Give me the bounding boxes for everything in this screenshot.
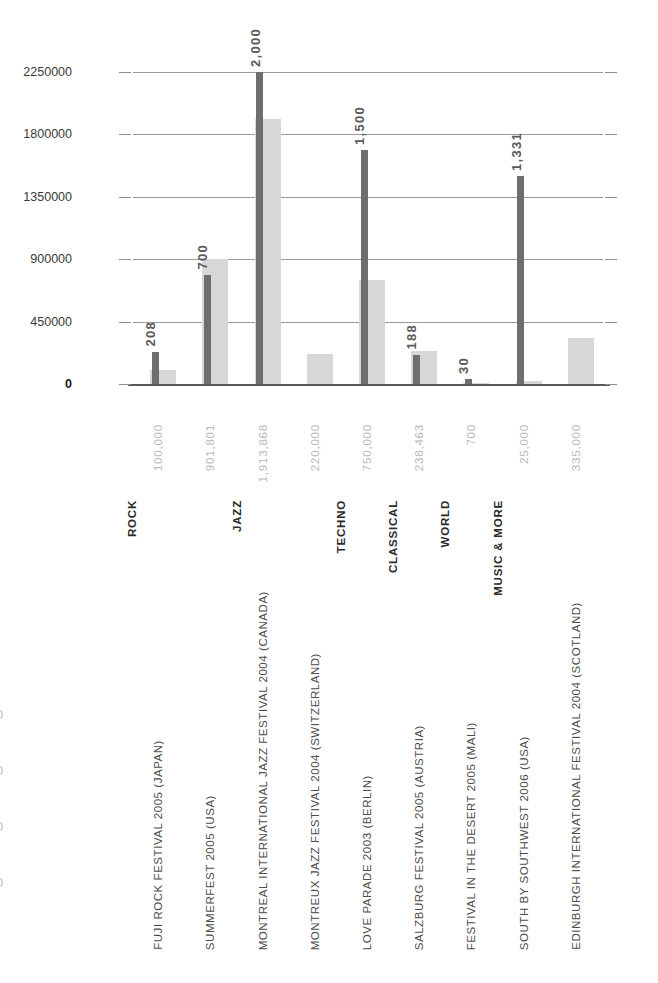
category-label: SOUTH BY SOUTHWEST 2006 (USA) — [519, 736, 530, 950]
plot-area: 0045000040090000080013500001200180000016… — [133, 72, 603, 384]
y-axis-left-tick-label: 900000 — [0, 253, 72, 265]
genre-label-music-more: MUSIC & MORE — [493, 500, 504, 596]
attendance-value-label: 238,463 — [414, 424, 425, 471]
bar-price — [152, 352, 159, 384]
tick-mark-left — [119, 134, 131, 135]
attendance-value-label: 750,000 — [362, 424, 373, 471]
category-label: SALZBURG FESTIVAL 2005 (AUSTRIA) — [414, 725, 425, 950]
chart-canvas: 0 0 0 0 00450000400900000800135000012001… — [0, 0, 658, 983]
tick-mark-right — [605, 384, 617, 385]
tick-mark-left — [119, 72, 131, 73]
y-axis-left-tick-label: 450000 — [0, 316, 72, 328]
bar-attendance — [568, 338, 594, 384]
edge-fragment-2: 0 — [0, 820, 3, 833]
bar-price — [517, 176, 524, 384]
attendance-value-label: 220,000 — [310, 424, 321, 471]
category-label: LOVE PARADE 2003 (BERLIN) — [362, 775, 373, 950]
genre-label-jazz: JAZZ — [232, 500, 243, 532]
price-value-label: 208 — [144, 321, 157, 347]
attendance-value-label: 700 — [466, 424, 477, 446]
tick-mark-right — [605, 322, 617, 323]
attendance-value-label: 100,000 — [153, 424, 164, 471]
gridline — [133, 72, 603, 73]
edge-fragment-1: 0 — [0, 764, 3, 777]
bar-price — [413, 355, 420, 384]
tick-mark-right — [605, 259, 617, 260]
tick-mark-left — [119, 197, 131, 198]
attendance-value-label: 901,801 — [205, 424, 216, 471]
attendance-value-label: 1,913,868 — [258, 424, 269, 482]
gridline — [133, 197, 603, 198]
price-value-label: 1,500 — [353, 106, 366, 145]
bar-price — [361, 150, 368, 384]
y-axis-left-tick-label: 2250000 — [0, 66, 72, 78]
price-value-label: 2,000 — [249, 28, 262, 67]
price-value-label: 700 — [196, 244, 209, 270]
category-label: MONTREUX JAZZ FESTIVAL 2004 (SWITZERLAND… — [310, 653, 321, 950]
y-axis-left-tick-label: 1350000 — [0, 191, 72, 203]
bar-price — [256, 72, 263, 384]
genre-label-classical: CLASSICAL — [388, 500, 399, 573]
edge-fragment-0: 0 — [0, 708, 3, 721]
price-value-label: 1,331 — [510, 132, 523, 171]
attendance-value-label: 335,000 — [571, 424, 582, 471]
edge-fragment-3: 0 — [0, 876, 3, 889]
category-label: FESTIVAL IN THE DESERT 2005 (MALI) — [466, 722, 477, 950]
tick-mark-left — [119, 259, 131, 260]
y-axis-left-tick-label: 1800000 — [0, 128, 72, 140]
bar-attendance — [307, 354, 333, 385]
tick-mark-right — [605, 134, 617, 135]
gridline — [133, 134, 603, 135]
tick-mark-left — [119, 322, 131, 323]
bar-price — [465, 379, 472, 384]
genre-label-rock: ROCK — [127, 500, 138, 537]
category-label: FUJI ROCK FESTIVAL 2005 (JAPAN) — [153, 740, 164, 950]
category-label: SUMMERFEST 2005 (USA) — [205, 795, 216, 950]
category-label: EDINBURGH INTERNATIONAL FESTIVAL 2004 (S… — [571, 602, 582, 950]
bar-price — [204, 275, 211, 384]
y-axis-left-tick-label: 0 — [0, 378, 72, 390]
price-value-label: 188 — [405, 324, 418, 350]
genre-label-techno: TECHNO — [336, 500, 347, 553]
x-axis-line — [128, 384, 610, 386]
tick-mark-right — [605, 197, 617, 198]
tick-mark-right — [605, 72, 617, 73]
price-value-label: 30 — [457, 357, 470, 374]
attendance-value-label: 25,000 — [519, 424, 530, 464]
genre-label-world: WORLD — [440, 500, 451, 547]
category-label: MONTREAL INTERNATIONAL JAZZ FESTIVAL 200… — [258, 591, 269, 950]
tick-mark-left — [119, 384, 131, 385]
